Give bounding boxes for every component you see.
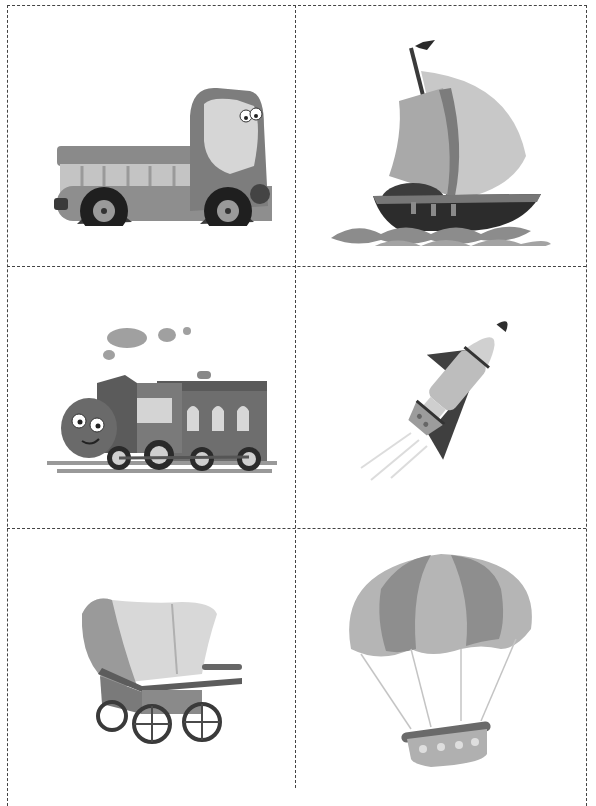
card-truck: Truck	[8, 6, 295, 266]
wagon-icon	[52, 574, 252, 744]
card-balloon: Hot air balloon	[296, 529, 585, 788]
hot-air-balloon-icon	[341, 549, 541, 769]
card-wagon: Covered wagon	[8, 529, 295, 788]
rocket-icon	[341, 308, 541, 488]
truck-icon	[32, 46, 272, 226]
train-icon	[27, 313, 277, 483]
card-train: Steam train	[8, 267, 295, 528]
card-sailboat: Sailboat	[296, 6, 585, 266]
card-rocket: Rocket	[296, 267, 585, 528]
sailboat-icon	[311, 26, 571, 246]
